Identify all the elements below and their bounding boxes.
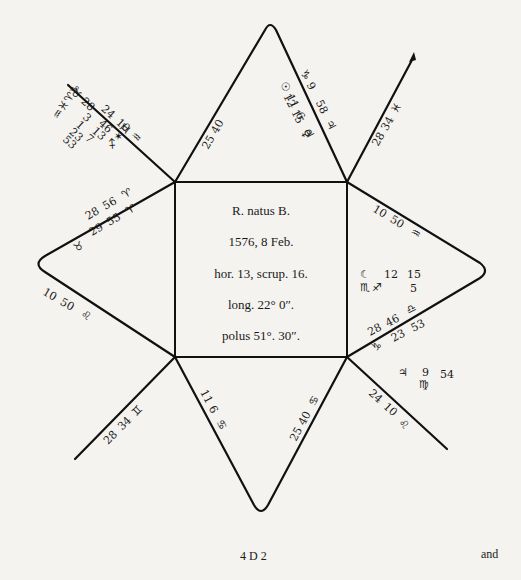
- svg-text:♏: ♏: [360, 281, 370, 294]
- label-upper-left-signs: ♒ ♓ ♈ ♑: [50, 82, 84, 122]
- svg-text:♈: ♈: [119, 185, 134, 201]
- nativity-date: 1576, 8 Feb.: [175, 234, 347, 250]
- catchword: and: [481, 547, 498, 562]
- label-right-inner: ☾ 12 15 ♏ ♐ 5: [360, 268, 421, 295]
- svg-text:9: 9: [304, 80, 319, 92]
- label-right-upper-edge: 10 50 ♒: [370, 202, 423, 241]
- svg-text:♍: ♍: [419, 378, 429, 391]
- svg-text:♑: ♑: [369, 339, 384, 355]
- svg-text:♃: ♃: [323, 117, 339, 132]
- horoscope-page: 25 40 ♑ 9 58 ♃ ☉ 11 6 ♃ 12 15 ♀ 28 34 ♓: [0, 0, 521, 580]
- horoscope-diagram: 25 40 ♑ 9 58 ♃ ☉ 11 6 ♃ 12 15 ♀ 28 34 ♓: [0, 0, 521, 580]
- svg-text:♃: ♃: [398, 366, 408, 379]
- nativity-name: R. natus B.: [175, 203, 347, 219]
- svg-text:☾: ☾: [360, 268, 370, 281]
- svg-text:12: 12: [384, 268, 398, 281]
- svg-text:6: 6: [206, 403, 221, 415]
- svg-text:24: 24: [99, 102, 118, 121]
- label-lower-right-inner: ♃ 9 54 ♍: [398, 366, 454, 391]
- svg-text:♎: ♎: [404, 301, 419, 317]
- svg-text:54: 54: [440, 368, 454, 381]
- svg-text:♌: ♌: [79, 307, 94, 323]
- upper-right-spike: [347, 60, 412, 182]
- svg-text:5: 5: [410, 282, 417, 295]
- svg-text:15: 15: [407, 268, 421, 281]
- nativity-longitude: long. 22° 0″.: [175, 297, 347, 313]
- spike-tip: [409, 52, 416, 62]
- nativity-time: hor. 13, scrup. 16.: [175, 266, 347, 282]
- svg-text:♐: ♐: [372, 281, 382, 294]
- svg-text:10: 10: [41, 285, 60, 303]
- svg-text:♋: ♋: [306, 393, 322, 408]
- bottom-triangle: [175, 357, 347, 511]
- svg-text:♓: ♓: [388, 101, 404, 116]
- svg-text:♋: ♋: [213, 417, 229, 432]
- nativity-pole: polus 51°. 30″.: [175, 328, 347, 344]
- svg-text:♊: ♊: [129, 403, 145, 419]
- label-left-lower-edge: 10 50 ♌: [41, 285, 94, 323]
- lower-left-spike: [75, 357, 175, 459]
- lower-right-spike: [347, 357, 447, 449]
- svg-text:♌: ♌: [396, 416, 412, 432]
- svg-text:50: 50: [58, 295, 77, 313]
- label-lower-right-spike: 24 10 ♌: [365, 387, 414, 433]
- signature-mark: 4 D 2: [240, 549, 267, 564]
